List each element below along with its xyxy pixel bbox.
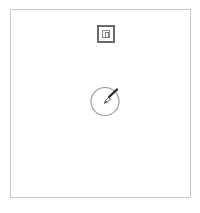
paintbrush-icon <box>90 86 121 117</box>
nested-square-button[interactable] <box>97 25 115 43</box>
paintbrush-button[interactable] <box>90 86 121 117</box>
nested-square-icon <box>102 30 110 38</box>
nested-square-core <box>105 32 109 38</box>
